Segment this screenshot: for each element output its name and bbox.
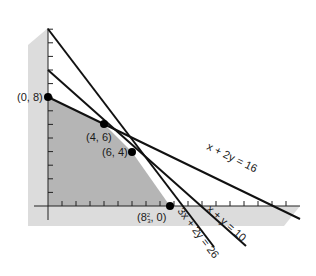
vertex-6-4-label: (6, 4) xyxy=(102,146,128,158)
vertex-8-2-3-0-label: (823, 0) xyxy=(137,211,166,224)
linear-programming-diagram: (0, 8) (4, 6) (6, 4) (823, 0) x + 2y = 1… xyxy=(0,0,316,276)
vertex-4-6-label: (4, 6) xyxy=(86,131,112,143)
line-x-2y-16-label: x + 2y = 16 xyxy=(205,140,259,174)
vertex-6-4-point xyxy=(128,148,136,156)
y-axis-band xyxy=(28,28,48,226)
vertex-0-8-point xyxy=(44,93,52,101)
vertex-8-2-3-0-point xyxy=(166,202,174,210)
vertex-4-6-point xyxy=(100,120,108,128)
vertex-0-8-label: (0, 8) xyxy=(17,91,43,103)
